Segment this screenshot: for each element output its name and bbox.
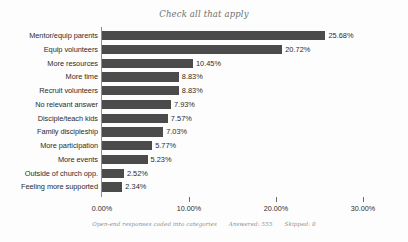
survey-bar-chart: Check all that apply Mentor/equip parent… bbox=[0, 0, 408, 242]
x-tick-mark bbox=[189, 197, 190, 202]
bar-row: Equip volunteers20.72% bbox=[0, 43, 408, 57]
bar-value-label: 25.68% bbox=[328, 29, 353, 43]
bar-value-label: 20.72% bbox=[285, 43, 310, 57]
category-label: Disciple/teach kids bbox=[38, 112, 98, 126]
bar-row: More resources10.45% bbox=[0, 57, 408, 71]
category-label: More events bbox=[58, 153, 98, 167]
bar bbox=[102, 155, 148, 164]
bar bbox=[102, 45, 282, 54]
bar-row: No relevant answer7.93% bbox=[0, 98, 408, 112]
bar-value-label: 5.23% bbox=[151, 153, 172, 167]
category-label: More participation bbox=[40, 139, 98, 153]
bar-row: Mentor/equip parents25.68% bbox=[0, 29, 408, 43]
bar-row: More participation5.77% bbox=[0, 139, 408, 153]
x-tick-label: 30.00% bbox=[351, 204, 375, 213]
bar-value-label: 2.34% bbox=[125, 180, 146, 194]
plot-area: Mentor/equip parents25.68%Equip voluntee… bbox=[0, 0, 408, 242]
x-tick-label: 20.00% bbox=[264, 204, 288, 213]
bar-rows: Mentor/equip parents25.68%Equip voluntee… bbox=[0, 29, 408, 194]
footer-answered: Answered: 555 bbox=[229, 221, 273, 227]
bar-value-label: 7.03% bbox=[166, 125, 187, 139]
bar-row: More time8.83% bbox=[0, 70, 408, 84]
bar bbox=[102, 141, 152, 150]
category-label: Outside of church opp. bbox=[25, 167, 98, 181]
category-label: Equip volunteers bbox=[44, 43, 98, 57]
x-axis: 0.00%10.00%20.00%30.00% bbox=[0, 197, 408, 219]
bar-value-label: 7.93% bbox=[174, 98, 195, 112]
category-label: Family discipleship bbox=[37, 125, 98, 139]
x-tick-label: 10.00% bbox=[177, 204, 201, 213]
bar-row: Recruit volunteers8.83% bbox=[0, 84, 408, 98]
bar-value-label: 10.45% bbox=[196, 57, 221, 71]
bar-value-label: 2.52% bbox=[127, 167, 148, 181]
bar-row: Family discipleship7.03% bbox=[0, 125, 408, 139]
x-tick-mark bbox=[363, 197, 364, 202]
bar bbox=[102, 127, 163, 136]
bar bbox=[102, 59, 193, 68]
bar-value-label: 8.83% bbox=[182, 84, 203, 98]
bar-value-label: 7.57% bbox=[171, 112, 192, 126]
bar bbox=[102, 169, 124, 178]
bar bbox=[102, 182, 122, 191]
bar bbox=[102, 72, 179, 81]
category-label: Feeling more supported bbox=[21, 180, 98, 194]
bar-value-label: 8.83% bbox=[182, 70, 203, 84]
bar-row: Outside of church opp.2.52% bbox=[0, 167, 408, 181]
bar bbox=[102, 114, 168, 123]
category-label: More resources bbox=[47, 57, 98, 71]
bar-value-label: 5.77% bbox=[155, 139, 176, 153]
category-label: Recruit volunteers bbox=[39, 84, 98, 98]
bar bbox=[102, 100, 171, 109]
x-tick-label: 0.00% bbox=[92, 204, 112, 213]
footer-skipped: Skipped: 0 bbox=[284, 221, 315, 227]
x-tick-mark bbox=[276, 197, 277, 202]
bar bbox=[102, 86, 179, 95]
bar bbox=[102, 31, 325, 40]
bar-row: More events5.23% bbox=[0, 153, 408, 167]
bar-row: Disciple/teach kids7.57% bbox=[0, 112, 408, 126]
bar-row: Feeling more supported2.34% bbox=[0, 180, 408, 194]
category-label: No relevant answer bbox=[35, 98, 98, 112]
footer-note: Open-end responses coded into categories bbox=[92, 221, 217, 227]
chart-footer: Open-end responses coded into categories… bbox=[0, 221, 408, 227]
category-label: More time bbox=[66, 70, 98, 84]
category-label: Mentor/equip parents bbox=[29, 29, 98, 43]
